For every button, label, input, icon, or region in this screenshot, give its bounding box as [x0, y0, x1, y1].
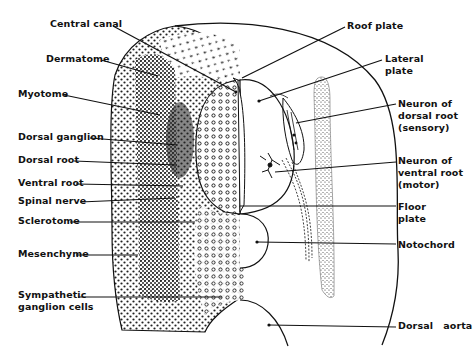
label-spinal-nerve: Spinal nerve: [18, 195, 86, 207]
label-dorsal-aorta: Dorsal aorta: [398, 320, 472, 332]
neural-tube-right: [240, 80, 294, 214]
dorsal-root-neuron: [283, 98, 304, 164]
label-dorsal-root: Dorsal root: [18, 154, 79, 166]
sclerotome-region: [195, 205, 245, 315]
label-myotome: Myotome: [18, 88, 68, 100]
notochord: [240, 214, 268, 268]
nerve-fibers: [282, 158, 312, 262]
label-neuron-dorsal-root: Neuron of dorsal root (sensory): [398, 98, 458, 134]
label-central-canal: Central canal: [50, 18, 122, 30]
lateral-plate-band: [314, 77, 334, 298]
label-notochord: Notochord: [398, 239, 455, 251]
label-sympathetic-ganglion-cells: Sympathetic ganglion cells: [18, 289, 94, 313]
label-roof-plate: Roof plate: [347, 20, 403, 32]
myotome-band: [135, 54, 180, 302]
label-sclerotome: Sclerotome: [18, 215, 80, 227]
ventral-root-neuron: [260, 153, 280, 178]
label-floor-plate: Floor plate: [398, 201, 426, 225]
label-mesenchyme: Mesenchyme: [18, 248, 89, 260]
label-dorsal-ganglion: Dorsal ganglion: [18, 131, 104, 143]
dorsal-ganglion-region: [166, 102, 194, 178]
label-neuron-ventral-root: Neuron of ventral root (motor): [398, 155, 463, 191]
embryo-cross-section-diagram: Central canal Dermatome Myotome Dorsal g…: [0, 0, 475, 358]
dorsal-aorta-outline: [240, 300, 288, 346]
label-ventral-root: Ventral root: [18, 177, 84, 189]
label-dermatome: Dermatome: [46, 53, 110, 65]
label-lateral-plate: Lateral plate: [385, 53, 424, 77]
